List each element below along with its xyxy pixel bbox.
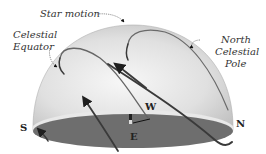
label-celestial-equator-1: Celestial	[13, 29, 57, 40]
label-south: S	[20, 122, 27, 133]
label-celestial-equator-2: Equator	[12, 41, 55, 52]
celestial-sphere-diagram: Star motion Celestial Equator North Cele…	[0, 0, 266, 154]
callout-star-motion	[97, 14, 124, 22]
label-north: N	[236, 118, 245, 129]
label-north-pole-3: Pole	[224, 58, 247, 69]
label-star-motion: Star motion	[40, 8, 100, 19]
label-north-pole-2: Celestial	[215, 46, 259, 57]
label-east: E	[130, 131, 138, 142]
label-west: W	[144, 101, 157, 112]
label-north-pole-1: North	[220, 34, 251, 45]
